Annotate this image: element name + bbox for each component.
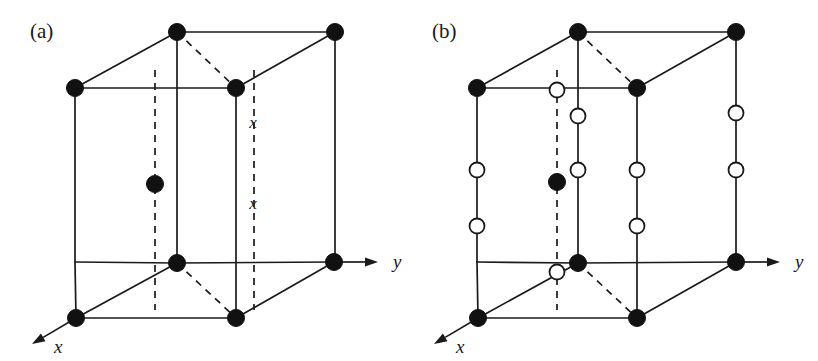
marker-label: x bbox=[248, 194, 257, 213]
atom-filled-circle bbox=[327, 24, 344, 41]
axis-label-x: x bbox=[455, 336, 465, 357]
axis-arrowhead-y bbox=[365, 258, 378, 267]
atom-filled-circle bbox=[169, 255, 186, 272]
unit-cell-edge-solid bbox=[637, 32, 736, 88]
panel-b: yx(b) bbox=[432, 19, 804, 357]
unit-cell-edge-solid bbox=[477, 32, 578, 88]
atom-open-circle bbox=[571, 109, 586, 124]
unit-cell-edge-solid bbox=[76, 263, 177, 318]
atom-filled-circle bbox=[228, 80, 245, 97]
crystal-structure-figure: yxxx(a)yx(b) bbox=[0, 0, 818, 361]
atom-filled-circle bbox=[728, 24, 745, 41]
figure-canvas: yxxx(a)yx(b) bbox=[0, 0, 818, 361]
axis-y: y bbox=[736, 251, 804, 272]
panel-label-b: (b) bbox=[432, 19, 457, 43]
unit-cell-edge-dashed bbox=[177, 263, 236, 318]
atom-filled-circle bbox=[67, 80, 84, 97]
atom-filled-circle bbox=[629, 310, 646, 327]
atom-open-circle bbox=[729, 106, 744, 121]
atom-open-circle bbox=[470, 219, 485, 234]
atom-open-circle bbox=[550, 265, 565, 280]
unit-cell-edge-solid bbox=[75, 262, 177, 263]
atom-filled-circle bbox=[169, 24, 186, 41]
unit-cell-edge-solid bbox=[236, 32, 335, 88]
unit-cell-edge-solid bbox=[578, 262, 736, 263]
atom-filled-circle bbox=[326, 254, 343, 271]
axis-arrowhead-x bbox=[434, 334, 447, 344]
atom-open-circle bbox=[729, 163, 744, 178]
axis-y: y bbox=[334, 251, 402, 272]
atom-filled-circle bbox=[469, 80, 486, 97]
unit-cell-edge-solid bbox=[177, 262, 334, 263]
atom-open-circle bbox=[630, 219, 645, 234]
unit-cell-edge-dashed bbox=[578, 32, 637, 88]
axis-arrowhead-x bbox=[32, 334, 45, 344]
atom-filled-circle bbox=[470, 310, 487, 327]
axis-label-x: x bbox=[53, 336, 63, 357]
unit-cell-edge-solid bbox=[477, 262, 578, 263]
atom-filled-circle bbox=[549, 174, 566, 191]
axis-label-y: y bbox=[391, 251, 402, 272]
atom-filled-circle bbox=[147, 176, 164, 193]
atom-open-circle bbox=[470, 163, 485, 178]
atom-filled-circle bbox=[228, 310, 245, 327]
axis-label-y: y bbox=[793, 251, 804, 272]
atom-open-circle bbox=[550, 83, 565, 98]
atom-filled-circle bbox=[570, 24, 587, 41]
unit-cell-edge-solid bbox=[75, 32, 177, 88]
atom-open-circle bbox=[571, 163, 586, 178]
marker-label: x bbox=[248, 113, 257, 132]
atom-open-circle bbox=[630, 163, 645, 178]
unit-cell-edge-solid bbox=[637, 262, 736, 318]
panels-group: yxxx(a)yx(b) bbox=[30, 19, 804, 357]
unit-cell-edge-dashed bbox=[578, 263, 637, 318]
unit-cell-edge-solid bbox=[236, 262, 334, 318]
atom-filled-circle bbox=[728, 254, 745, 271]
atom-filled-circle bbox=[629, 80, 646, 97]
atom-filled-circle bbox=[570, 255, 587, 272]
unit-cell-edge-dashed bbox=[177, 32, 236, 88]
atom-filled-circle bbox=[68, 310, 85, 327]
axis-arrowhead-y bbox=[767, 258, 780, 267]
panel-a: yxxx(a) bbox=[30, 19, 402, 357]
panel-label-a: (a) bbox=[30, 19, 53, 43]
